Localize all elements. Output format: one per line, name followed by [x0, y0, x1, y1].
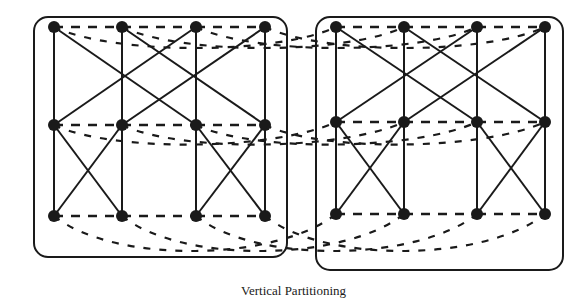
- figure-caption: Vertical Partitioning: [0, 283, 587, 299]
- node: [259, 210, 271, 222]
- node: [259, 21, 271, 33]
- node: [539, 116, 551, 128]
- node: [398, 21, 410, 33]
- node: [48, 210, 60, 222]
- node: [190, 210, 202, 222]
- network-nodes: [48, 21, 551, 222]
- node: [48, 119, 60, 131]
- node: [116, 210, 128, 222]
- node: [48, 21, 60, 33]
- node: [539, 208, 551, 220]
- node: [398, 116, 410, 128]
- node: [330, 116, 342, 128]
- node: [539, 21, 551, 33]
- node: [116, 119, 128, 131]
- node: [471, 208, 483, 220]
- node: [398, 208, 410, 220]
- node: [190, 119, 202, 131]
- node: [190, 21, 202, 33]
- node: [330, 21, 342, 33]
- node: [259, 119, 271, 131]
- butterfly-network-diagram: [0, 0, 587, 304]
- node: [471, 21, 483, 33]
- node: [116, 21, 128, 33]
- node: [330, 208, 342, 220]
- node: [471, 116, 483, 128]
